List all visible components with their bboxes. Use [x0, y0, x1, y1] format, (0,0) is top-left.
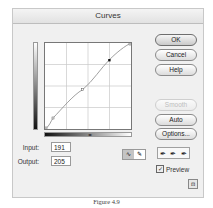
- output-gradient-bar: [33, 42, 38, 130]
- auto-button[interactable]: Auto: [155, 114, 197, 126]
- eyedropper-black-icon[interactable]: ✒: [160, 148, 166, 158]
- dialog-title: Curves: [13, 9, 203, 24]
- curves-dialog: Curves ◂▸ OK Cancel Help Smooth Auto Opt…: [12, 8, 204, 198]
- pencil-tool-icon[interactable]: ✎: [134, 150, 145, 159]
- eyedropper-gray-icon[interactable]: ✒: [170, 148, 176, 158]
- output-field[interactable]: 205: [51, 156, 71, 166]
- ok-button[interactable]: OK: [155, 34, 197, 46]
- preview-label: Preview: [166, 166, 189, 173]
- help-button[interactable]: Help: [155, 64, 197, 76]
- input-label: Input:: [17, 144, 39, 151]
- input-gradient-bar[interactable]: ◂▸: [44, 132, 132, 137]
- input-field[interactable]: 191: [51, 142, 71, 152]
- curve-graph[interactable]: [44, 42, 132, 130]
- eyedropper-group: ✒ ✒ ✒: [157, 147, 190, 159]
- curve-tool-group: ∿ ✎: [122, 149, 146, 160]
- eyedropper-white-icon[interactable]: ✒: [181, 148, 187, 158]
- curve-point-selected[interactable]: [108, 59, 110, 61]
- curve-point-1[interactable]: [52, 117, 54, 119]
- curve-point-tool-icon[interactable]: ∿: [123, 150, 134, 159]
- cancel-button[interactable]: Cancel: [155, 49, 197, 61]
- options-button[interactable]: Options...: [155, 128, 197, 140]
- curve-point-black[interactable]: [45, 127, 47, 129]
- curve-point-2[interactable]: [82, 89, 84, 91]
- smooth-button[interactable]: Smooth: [155, 99, 197, 111]
- curve-plot[interactable]: [45, 43, 131, 129]
- preview-checkbox[interactable]: ✓: [156, 165, 164, 173]
- output-label: Output:: [17, 158, 39, 165]
- gradient-toggle-icon[interactable]: ◂▸: [87, 132, 93, 137]
- expand-dialog-icon[interactable]: ⊡: [188, 179, 198, 189]
- preview-checkbox-row[interactable]: ✓ Preview: [156, 165, 189, 173]
- figure-caption: Figure 4.9: [0, 198, 213, 205]
- curve-point-white[interactable]: [129, 43, 131, 45]
